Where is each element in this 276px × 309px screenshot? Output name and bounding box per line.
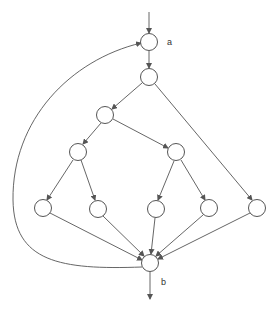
edge-n4-n8 <box>181 160 205 200</box>
node <box>168 144 185 161</box>
edge-n9-b <box>158 213 250 259</box>
edge-n8-b <box>156 215 203 256</box>
label-b: b <box>161 277 166 287</box>
edge-n1-n2 <box>112 83 142 109</box>
edge-n5-b <box>50 213 142 260</box>
node <box>97 107 114 124</box>
node <box>141 69 158 86</box>
edge-n2-n3 <box>83 123 101 144</box>
edge-n7-b <box>151 218 155 254</box>
label-a: a <box>167 37 172 47</box>
edge-n6-b <box>103 216 144 256</box>
edge-n1-n9 <box>155 84 252 200</box>
edges <box>13 12 252 299</box>
edge-n3-n5 <box>47 160 73 200</box>
node-a <box>141 34 158 51</box>
node <box>70 144 87 161</box>
flow-graph-diagram: a b <box>0 0 276 309</box>
node <box>148 201 165 218</box>
edge-n4-n7 <box>158 161 174 200</box>
node <box>35 200 52 217</box>
node <box>249 200 266 217</box>
edge-n3-n6 <box>81 160 95 200</box>
edge-n2-n4 <box>113 119 168 148</box>
node-b <box>142 255 159 272</box>
node <box>90 201 107 218</box>
node <box>201 200 218 217</box>
nodes <box>35 34 266 272</box>
